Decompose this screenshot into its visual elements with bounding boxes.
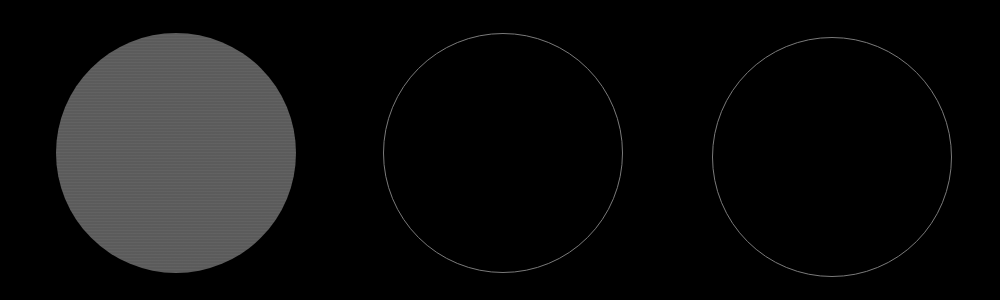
filled-disc — [56, 33, 296, 273]
outline-ring-middle — [383, 33, 623, 273]
outline-ring-right — [712, 37, 952, 277]
scene-canvas — [0, 0, 1000, 300]
